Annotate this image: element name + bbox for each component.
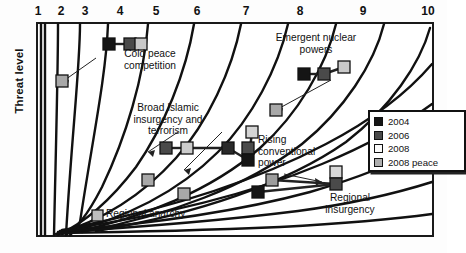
marker-2008-peace [338,61,350,73]
x-tick-5: 5 [153,4,160,18]
x-tick-10: 10 [421,4,434,18]
legend-label: 2008 peace [388,157,438,168]
legend-swatch-2008 [374,144,383,153]
marker-2004 [252,186,264,198]
marker-2008 [246,126,258,138]
annotation-cold-peace: Cold peace competition [104,48,196,71]
marker-2004 [222,142,234,154]
annotation-broad-islamic: Broad Islamic insurgency and terrorism [120,102,216,137]
annotation-rising-conventional: Rising conventional power [258,134,328,169]
x-tick-3: 3 [82,4,89,18]
annotation-emergent-nuclear: Emergent nuclear powers [264,32,368,55]
marker-2008 [330,166,342,178]
legend-label: 2006 [388,130,409,141]
marker-2006 [160,142,172,154]
marker-2008-peace [266,174,278,186]
legend-item: 2008 peace [374,156,460,170]
annotation-regional-anarchy: Regional anarchy [106,208,206,220]
marker-2008 [181,142,193,154]
legend-swatch-2008-peace [374,158,383,167]
marker-2008-peace [178,188,190,200]
x-tick-6: 6 [194,4,201,18]
x-tick-9: 9 [360,4,367,18]
marker-2006 [242,142,254,154]
marker-2008-peace [142,174,154,186]
marker-2008-peace [56,75,68,87]
x-tick-1: 1 [35,4,42,18]
plot-area: Cold peace competition Emergent nuclear … [36,22,434,237]
marker-2008-peace [270,104,282,116]
marker-2004 [242,154,254,166]
x-tick-2: 2 [58,4,65,18]
legend-item: 2004 [374,115,460,129]
legend-swatch-2004 [374,117,383,126]
legend-item: 2008 [374,142,460,156]
legend-item: 2006 [374,129,460,143]
marker-2006 [318,68,330,80]
legend-swatch-2006 [374,131,383,140]
x-tick-7: 7 [243,4,250,18]
annotation-regional-insurgency: Regional insurgency [308,192,392,215]
legend-label: 2004 [388,116,409,127]
x-tick-8: 8 [297,4,304,18]
marker-2004 [298,68,310,80]
x-tick-4: 4 [117,4,124,18]
marker-2008-peace [92,210,103,221]
y-axis-label: Threat level [13,21,31,141]
marker-2006 [330,178,342,190]
legend-label: 2008 [388,143,409,154]
legend: 2004 2006 2008 2008 peace [368,110,466,172]
